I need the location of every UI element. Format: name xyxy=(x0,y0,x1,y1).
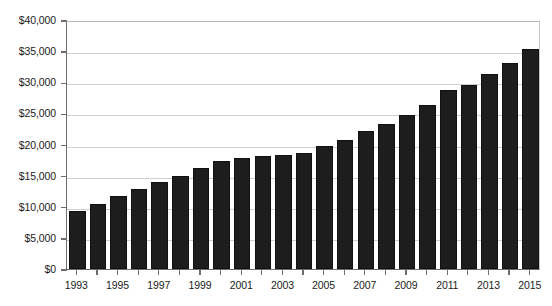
x-tick-label: 2013 xyxy=(468,279,508,291)
x-tick-mark xyxy=(302,270,303,275)
x-tick-label: 2003 xyxy=(262,279,302,291)
bar xyxy=(110,196,126,269)
bar xyxy=(337,140,353,269)
y-tick-label: $20,000 xyxy=(0,139,56,151)
x-tick-mark xyxy=(261,270,262,275)
y-tick-label: $40,000 xyxy=(0,14,56,26)
y-tick-label: $35,000 xyxy=(0,45,56,57)
bar xyxy=(358,131,374,269)
x-tick-mark xyxy=(158,270,159,275)
x-tick-mark xyxy=(138,270,139,275)
bar xyxy=(481,74,497,269)
bar xyxy=(172,176,188,269)
x-tick-label: 2007 xyxy=(345,279,385,291)
x-tick-mark xyxy=(364,270,365,275)
x-tick-mark xyxy=(447,270,448,275)
x-tick-mark xyxy=(488,270,489,275)
bar xyxy=(255,156,271,269)
y-tick-label: $0 xyxy=(0,263,56,275)
bar xyxy=(399,115,415,269)
x-tick-label: 1997 xyxy=(139,279,179,291)
x-tick-mark xyxy=(179,270,180,275)
x-tick-mark xyxy=(241,270,242,275)
bar xyxy=(522,49,538,269)
x-tick-mark xyxy=(426,270,427,275)
y-tick-label: $5,000 xyxy=(0,232,56,244)
x-tick-mark xyxy=(117,270,118,275)
bar xyxy=(213,161,229,269)
bar-chart: $0$5,000$10,000$15,000$20,000$25,000$30,… xyxy=(0,0,552,306)
bar xyxy=(275,155,291,269)
bar xyxy=(502,63,518,269)
y-tick-label: $10,000 xyxy=(0,201,56,213)
bar xyxy=(316,146,332,269)
x-tick-mark xyxy=(220,270,221,275)
x-tick-label: 1993 xyxy=(56,279,96,291)
x-tick-label: 1995 xyxy=(98,279,138,291)
bar xyxy=(440,90,456,269)
x-tick-mark xyxy=(405,270,406,275)
x-tick-label: 2005 xyxy=(304,279,344,291)
plot-area xyxy=(66,21,540,270)
bar xyxy=(69,211,85,270)
x-tick-mark xyxy=(344,270,345,275)
y-tick-label: $25,000 xyxy=(0,107,56,119)
x-tick-mark xyxy=(323,270,324,275)
y-tick-label: $30,000 xyxy=(0,76,56,88)
x-tick-mark xyxy=(508,270,509,275)
x-tick-label: 2015 xyxy=(510,279,550,291)
bar xyxy=(193,168,209,269)
bar xyxy=(151,182,167,269)
bar xyxy=(234,158,250,269)
bar xyxy=(296,153,312,269)
x-tick-mark xyxy=(282,270,283,275)
x-tick-mark xyxy=(96,270,97,275)
x-tick-mark xyxy=(385,270,386,275)
x-tick-label: 2009 xyxy=(386,279,426,291)
x-tick-label: 2001 xyxy=(221,279,261,291)
bar xyxy=(90,204,106,269)
gridline xyxy=(67,53,539,54)
bar xyxy=(131,189,147,269)
x-tick-mark xyxy=(199,270,200,275)
bar xyxy=(378,124,394,269)
bar xyxy=(419,105,435,269)
x-tick-label: 1999 xyxy=(180,279,220,291)
bar xyxy=(461,85,477,269)
y-tick-label: $15,000 xyxy=(0,170,56,182)
x-tick-mark xyxy=(529,270,530,275)
x-tick-label: 2011 xyxy=(427,279,467,291)
x-tick-mark xyxy=(467,270,468,275)
x-tick-mark xyxy=(76,270,77,275)
